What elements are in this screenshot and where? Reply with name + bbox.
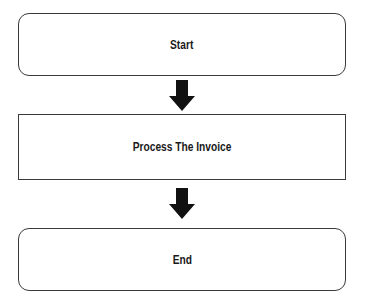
process-node: Process The Invoice [18,114,346,180]
down-arrow-icon [169,80,195,111]
end-node: End [18,228,346,291]
end-label: End [172,253,191,267]
down-arrow-icon [169,188,195,219]
start-node: Start [18,13,346,76]
process-label: Process The Invoice [133,140,232,154]
start-label: Start [170,38,193,52]
